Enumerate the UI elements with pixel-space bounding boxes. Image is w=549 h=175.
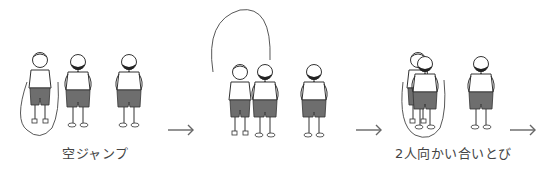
arrow-icon: [168, 125, 193, 135]
step-2-illustration: [212, 10, 328, 137]
step-1-illustration: [21, 53, 143, 136]
arrow-icon: [356, 125, 381, 135]
step-3-caption: 2人向かい合いとび: [395, 143, 512, 162]
arrow-icon: [510, 125, 535, 135]
step-1-caption: 空ジャンプ: [62, 143, 129, 162]
step-3-illustration: [402, 53, 494, 138]
